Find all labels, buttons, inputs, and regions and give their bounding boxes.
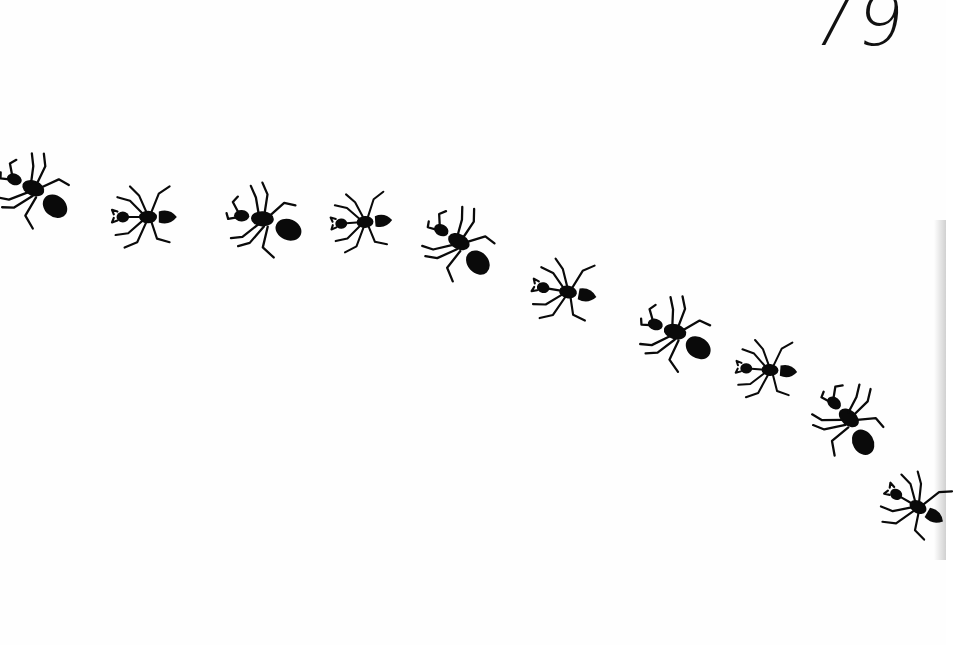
ant-icon xyxy=(399,182,527,310)
ant-icon xyxy=(725,325,816,416)
ant-icon xyxy=(218,171,318,271)
ant-icon xyxy=(320,177,411,268)
page-number: 79 xyxy=(804,0,911,62)
ant-icon xyxy=(0,131,99,253)
ant-icon xyxy=(622,277,738,393)
ant-icon xyxy=(516,240,620,344)
page-edge-shadow xyxy=(934,220,946,560)
ant-icon xyxy=(103,172,193,262)
